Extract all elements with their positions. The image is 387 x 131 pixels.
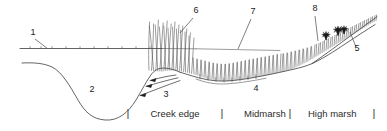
callout-label-2: 2	[89, 84, 94, 94]
tall-creekside-grass	[149, 20, 194, 73]
midmarsh-grass	[193, 54, 281, 82]
zone-divider-1: |	[127, 107, 130, 119]
callout-label-6: 6	[193, 5, 198, 15]
callout-labels: 1 2 3 4 5 6 7 8	[30, 3, 359, 99]
callout-label-3: 3	[163, 89, 168, 99]
zone-divider-4: |	[373, 107, 376, 119]
callout-label-1: 1	[30, 27, 35, 37]
leader-7	[238, 19, 251, 49]
zone-divider-2: |	[221, 107, 224, 119]
leader-8	[315, 16, 318, 41]
tidal-flow-arrows	[140, 75, 180, 97]
zone-label-creek-edge: Creek edge	[150, 108, 199, 119]
callout-leaders	[35, 16, 356, 49]
zone-divider-3: |	[289, 107, 292, 119]
callout-label-8: 8	[312, 3, 317, 13]
zone-label-midmarsh: Midmarsh	[244, 108, 286, 119]
callout-label-7: 7	[250, 6, 255, 16]
high-marsh-grass	[282, 15, 377, 72]
zone-caption-bar: | Creek edge | Midmarsh | High marsh |	[127, 107, 376, 119]
salt-marsh-cross-section-diagram: 1 2 3 4 5 6 7 8 | Creek edge | Midmarsh …	[0, 0, 387, 131]
zone-label-high-marsh: High marsh	[308, 108, 357, 119]
callout-label-5: 5	[354, 43, 359, 53]
water-surface-line	[20, 47, 280, 51]
upland-border	[312, 17, 377, 64]
callout-label-4: 4	[253, 83, 258, 93]
